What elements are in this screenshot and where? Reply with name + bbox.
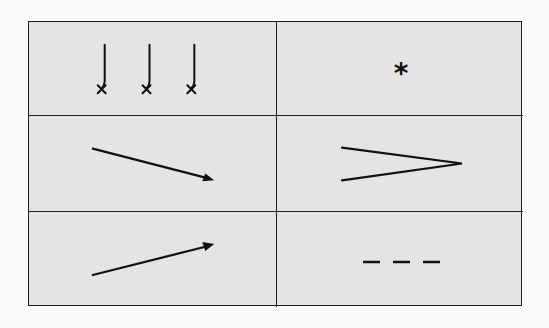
dashed-line-icon [277, 212, 523, 307]
arrow-down-right-icon [29, 116, 276, 211]
cell-arrow-down-right [29, 116, 277, 212]
hook-x-marks-icon [29, 22, 276, 115]
cell-dashed-line [277, 212, 523, 307]
cell-arrow-up-right [29, 212, 277, 307]
cell-wedge [277, 116, 523, 212]
greater-than-wedge-icon [277, 116, 523, 211]
asterisk-icon: * [394, 60, 409, 88]
cell-hooks-with-x [29, 22, 277, 116]
arrow-up-right-icon [29, 212, 276, 307]
symbol-grid: * [28, 21, 522, 306]
cell-asterisk: * [277, 22, 523, 116]
